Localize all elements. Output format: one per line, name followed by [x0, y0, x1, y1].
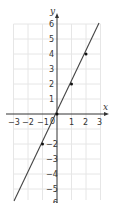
y-tick-label: 5 — [49, 35, 54, 44]
x-tick-label: 1 — [69, 118, 74, 127]
y-tick-label: 4 — [49, 50, 54, 59]
point-2-4 — [85, 53, 88, 56]
x-tick-label: −2 — [22, 118, 34, 127]
y-axis-arrow-icon — [55, 13, 59, 18]
point-neg1-neg2 — [41, 143, 44, 146]
y-tick-label: −5 — [46, 185, 58, 194]
coordinate-plane: x y −3 −2 −1 0 1 2 3 6 5 4 3 2 1 −2 −3 −… — [0, 0, 113, 203]
y-tick-label: 1 — [49, 95, 54, 104]
y-axis-label: y — [49, 6, 56, 16]
point-1-2 — [70, 83, 73, 86]
y-tick-label: −2 — [46, 140, 58, 149]
y-tick-label: −6 — [46, 199, 58, 203]
x-axis-label: x — [103, 102, 108, 112]
y-tick-label: −4 — [46, 170, 58, 179]
x-tick-label: −1 — [37, 118, 49, 127]
x-axis-arrow-icon — [104, 112, 109, 116]
y-tick-label: 6 — [49, 20, 54, 29]
y-tick-label: 3 — [49, 65, 54, 74]
x-tick-label: 2 — [83, 118, 88, 127]
y-tick-label: −3 — [46, 155, 58, 164]
point-origin — [56, 113, 59, 116]
y-tick-label: 2 — [49, 80, 54, 89]
x-tick-label: 3 — [97, 118, 102, 127]
x-tick-label: −3 — [8, 118, 20, 127]
